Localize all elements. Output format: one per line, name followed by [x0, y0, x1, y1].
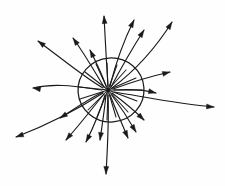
radial-field-diagram	[0, 0, 225, 186]
figure-container	[0, 0, 225, 186]
